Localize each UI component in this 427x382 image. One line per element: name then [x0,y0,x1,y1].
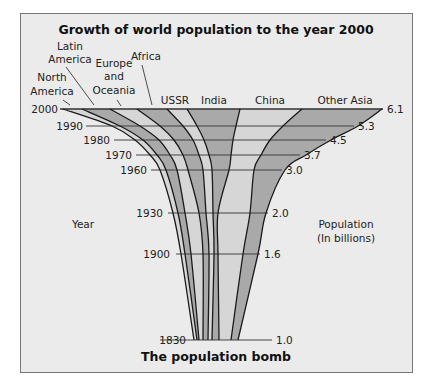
population-tick-2.0: 2.0 [272,207,289,219]
year-tick-1930: 1930 [136,207,163,219]
population-axis-label-2: (In billions) [317,232,375,244]
population-funnel-chart: Growth of world population to the year 2… [0,0,427,382]
population-tick-3.0: 3.0 [286,164,303,176]
label-china: China [255,94,285,106]
label-north-america-2: America [30,85,73,97]
label-ussr: USSR [161,94,189,106]
label-europe-3: Oceania [93,84,136,96]
label-europe-2: and [104,70,124,82]
chart-subtitle: The population bomb [141,349,291,364]
population-tick-1.6: 1.6 [264,248,281,260]
population-tick-4.5: 4.5 [330,134,347,146]
population-axis-label-1: Population [318,218,373,230]
label-north-america-1: North [37,71,66,83]
year-tick-1960: 1960 [120,164,147,176]
year-tick-1990: 1990 [56,120,83,132]
leader-north-america [63,100,70,105]
label-other-asia: Other Asia [317,94,372,106]
chart-title: Growth of world population to the year 2… [58,22,374,37]
year-tick-1900: 1900 [143,248,170,260]
population-tick-6.1: 6.1 [387,103,404,115]
population-tick-3.7: 3.7 [304,149,321,161]
population-tick-5.3: 5.3 [358,120,375,132]
label-europe-1: Europe [96,57,133,69]
label-latin-america-2: America [48,53,91,65]
year-tick-2000: 2000 [31,103,58,115]
year-tick-1970: 1970 [105,149,132,161]
year-tick-1980: 1980 [83,134,110,146]
label-india: India [201,94,227,106]
region-labels: North America Latin America Europe and O… [30,40,372,106]
leader-europe [117,100,121,106]
year-axis-label: Year [71,218,95,230]
population-tick-1.0: 1.0 [276,334,293,346]
label-africa: Africa [131,50,161,62]
leader-africa [142,65,152,105]
year-tick-1830: 1830 [159,334,186,346]
label-latin-america-1: Latin [57,40,83,52]
